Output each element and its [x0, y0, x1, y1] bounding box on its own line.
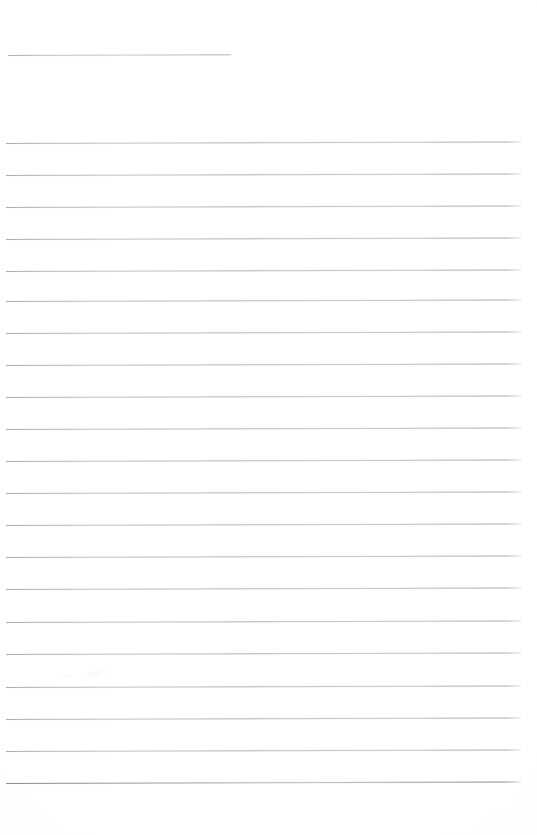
ruled-line: [6, 300, 521, 302]
ruled-line: [6, 142, 521, 144]
ruled-line: [6, 364, 521, 366]
scan-smudge: [60, 674, 71, 677]
ruled-line: [6, 492, 521, 494]
scan-smudge: [86, 672, 100, 676]
ruled-line: [6, 653, 521, 655]
paper-background: [0, 0, 537, 835]
ruled-line: [6, 718, 521, 720]
ruled-line: [6, 174, 521, 176]
ruled-line: [6, 206, 521, 208]
ruled-line: [6, 460, 521, 462]
ruled-line: [6, 396, 521, 398]
ruled-line: [6, 238, 521, 240]
ruled-line: [6, 270, 521, 272]
ruled-line: [6, 750, 521, 752]
ruled-line: [6, 686, 521, 688]
ruled-line: [6, 782, 521, 784]
ruled-line: [6, 332, 521, 334]
scan-smudge: [99, 670, 108, 673]
scanned-page: [0, 0, 537, 835]
ruled-line: [6, 556, 521, 558]
header-short-rule: [8, 54, 232, 56]
ruled-line: [6, 524, 521, 526]
ruled-line: [6, 588, 521, 590]
ruled-line: [6, 428, 521, 430]
ruled-line: [6, 621, 521, 623]
